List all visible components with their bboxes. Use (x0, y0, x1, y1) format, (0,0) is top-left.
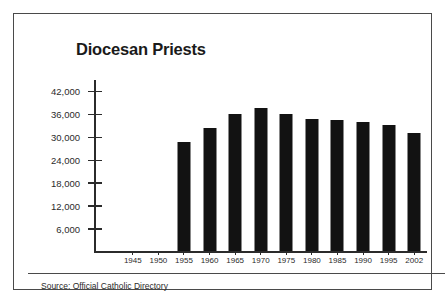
y-axis-tick-label: 18,000 (51, 178, 80, 189)
bar (203, 128, 216, 251)
chart-frame: Diocesan Priests 6,00012,00018,00024,000… (13, 13, 432, 290)
x-axis-tick-label: 1995 (380, 256, 398, 265)
y-axis-tick: 6,000 (88, 228, 102, 230)
bar (382, 125, 395, 251)
x-axis-tick (414, 252, 415, 255)
x-axis-tick-label: 1985 (329, 256, 347, 265)
y-axis-tick: 30,000 (88, 137, 102, 139)
y-axis-line (94, 80, 96, 252)
x-axis-tick (132, 252, 133, 255)
footer-divider (28, 273, 445, 274)
x-axis-tick (388, 252, 389, 255)
x-axis-tick (235, 252, 236, 255)
x-axis-tick-label: 1950 (149, 256, 167, 265)
plot-area: 6,00012,00018,00024,00030,00036,00042,00… (94, 80, 427, 252)
y-axis-tick-label: 24,000 (51, 155, 80, 166)
bar (331, 120, 344, 251)
x-axis-tick-label: 1970 (252, 256, 270, 265)
bar (357, 122, 370, 251)
x-axis-tick (311, 252, 312, 255)
y-axis-tick: 18,000 (88, 182, 102, 184)
x-axis-tick-label: 1980 (303, 256, 321, 265)
y-axis-tick-label: 30,000 (51, 132, 80, 143)
bar (305, 119, 318, 251)
chart-page: Diocesan Priests 6,00012,00018,00024,000… (0, 0, 445, 306)
x-axis-tick (158, 252, 159, 255)
bar (177, 142, 190, 251)
y-axis-tick-label: 12,000 (51, 201, 80, 212)
x-axis-tick-label: 1945 (124, 256, 142, 265)
x-axis-tick-label: 1990 (354, 256, 372, 265)
x-axis-tick-label: 1960 (201, 256, 219, 265)
x-axis-tick-label: 1955 (175, 256, 193, 265)
bar (408, 133, 421, 251)
y-axis-tick: 42,000 (88, 91, 102, 93)
bar (229, 114, 242, 251)
x-axis-tick (286, 252, 287, 255)
y-axis-tick: 24,000 (88, 160, 102, 162)
y-axis-tick-label: 6,000 (56, 224, 80, 235)
x-axis-tick (337, 252, 338, 255)
x-axis-tick-label: 1975 (277, 256, 295, 265)
x-axis-tick-label: 1965 (226, 256, 244, 265)
x-axis-tick (260, 252, 261, 255)
bar (280, 114, 293, 251)
x-axis-tick (209, 252, 210, 255)
x-axis-tick (363, 252, 364, 255)
y-axis-tick: 12,000 (88, 205, 102, 207)
source-note: Source: Official Catholic Directory (41, 281, 168, 291)
chart-title: Diocesan Priests (76, 40, 206, 59)
bar (254, 108, 267, 251)
y-axis-tick-label: 36,000 (51, 109, 80, 120)
x-axis-tick-label: 2002 (405, 256, 423, 265)
x-axis-tick (183, 252, 184, 255)
y-axis-tick-label: 42,000 (51, 86, 80, 97)
y-axis-tick: 36,000 (88, 114, 102, 116)
